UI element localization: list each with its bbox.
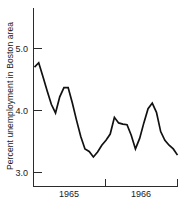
data-series-line xyxy=(35,63,178,157)
unemployment-line-chart: 5.0 4.0 3.0 1965 1966 Percent unemployme… xyxy=(0,0,187,201)
y-tick-label-5: 5.0 xyxy=(15,44,28,54)
x-tick-label-1966: 1966 xyxy=(131,189,151,199)
y-tick-label-4: 4.0 xyxy=(15,106,28,116)
chart-canvas: 5.0 4.0 3.0 1965 1966 Percent unemployme… xyxy=(0,0,187,201)
y-axis-title: Percent unemployment in Boston area xyxy=(5,22,15,170)
y-tick-label-3: 3.0 xyxy=(15,168,28,178)
x-tick-label-1965: 1965 xyxy=(59,189,79,199)
